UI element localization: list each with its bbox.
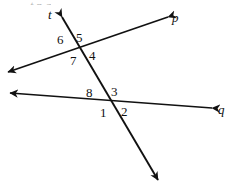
angle-label-6: 6: [57, 33, 64, 46]
angle-label-7: 7: [70, 54, 77, 67]
angle-label-1: 1: [100, 106, 107, 119]
line-label-t: t: [48, 8, 52, 21]
angle-label-3: 3: [111, 85, 118, 98]
angle-label-8: 8: [86, 86, 93, 99]
diagram-canvas: [0, 0, 236, 188]
geometry-figure: t p q t p q 6 5 7 4 8 3 1 2: [0, 0, 236, 188]
angle-label-5: 5: [76, 31, 83, 44]
line-label-q: q: [218, 103, 225, 116]
line-p: [8, 17, 168, 72]
angle-label-2: 2: [121, 105, 128, 118]
angle-label-4: 4: [89, 49, 96, 62]
line-label-p: p: [172, 11, 179, 24]
